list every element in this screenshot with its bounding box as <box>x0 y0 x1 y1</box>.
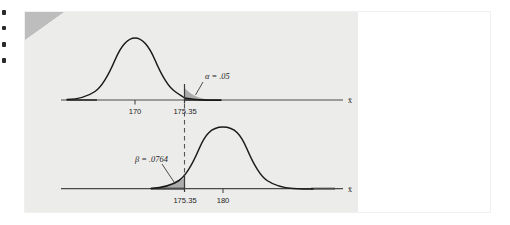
alternative-normal-curve <box>151 127 313 189</box>
plot-area: α = .05 170 175.35 x̄ <box>25 12 358 212</box>
null-axis-label: x̄ <box>348 96 352 105</box>
alternative-distribution-panel: β = .0764 175.35 180 x̄ <box>61 127 352 205</box>
scan-edge-mark <box>2 10 6 15</box>
beta-leader-line <box>162 164 175 184</box>
figure-root: α = .05 170 175.35 x̄ <box>0 0 510 225</box>
alpha-label: α = .05 <box>205 72 230 81</box>
scan-edge-mark <box>2 42 6 47</box>
scan-edge-mark <box>2 26 6 30</box>
alternative-axis-label: x̄ <box>348 185 352 194</box>
alpha-leader-line <box>196 82 204 95</box>
scan-edge-mark <box>2 58 6 63</box>
alternative-tick-label-critical: 175.35 <box>173 196 196 205</box>
null-distribution-panel: α = .05 170 175.35 x̄ <box>61 38 352 116</box>
null-axis-label-group: x̄ <box>348 96 352 105</box>
figure-panel: α = .05 170 175.35 x̄ <box>25 12 490 212</box>
null-tick-label-mean: 170 <box>129 107 142 116</box>
beta-label: β = .0764 <box>134 155 168 164</box>
alternative-axis-label-group: x̄ <box>348 185 352 194</box>
distributions-chart: α = .05 170 175.35 x̄ <box>25 12 358 212</box>
alternative-tick-label-mean: 180 <box>217 196 230 205</box>
